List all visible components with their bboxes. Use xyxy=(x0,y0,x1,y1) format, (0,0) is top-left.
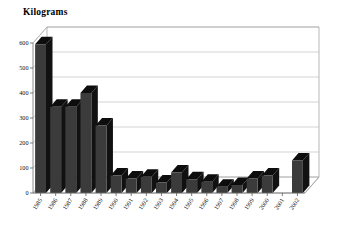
y-axis-tick-label: 600 xyxy=(19,39,28,46)
x-axis-tick-label: 1994 xyxy=(167,197,180,211)
chart-plot-area: 0100200300400500600 19851986198719881989… xyxy=(0,0,341,238)
y-axis-tick-label: 400 xyxy=(19,89,28,96)
x-axis-tick-label: 1989 xyxy=(91,197,104,211)
x-axis-tick-label: 1987 xyxy=(61,197,74,211)
x-axis-tick-label: 1986 xyxy=(46,197,59,211)
y-axis-tick-label: 100 xyxy=(19,164,28,171)
bar-column xyxy=(50,99,67,193)
x-axis-tick-label: 1988 xyxy=(76,197,89,211)
x-axis-tick-label: 1985 xyxy=(31,197,44,211)
y-axis-tick-label: 300 xyxy=(19,114,28,121)
y-axis-tick-label: 200 xyxy=(19,139,28,146)
x-axis-labels: 1985198619871988198919901991199219931994… xyxy=(31,197,301,211)
bar-column xyxy=(65,99,82,193)
x-axis-tick-label: 1997 xyxy=(212,197,225,211)
bar-column xyxy=(96,118,113,193)
x-axis-tick-label: 1996 xyxy=(197,197,210,211)
x-axis-tick-label: 1993 xyxy=(152,197,165,211)
bar-column xyxy=(35,37,52,193)
x-axis-tick-label: 2002 xyxy=(288,197,301,211)
y-axis-labels: 0100200300400500600 xyxy=(19,39,28,196)
x-axis-tick-label: 1991 xyxy=(121,197,134,211)
bar-column xyxy=(80,86,97,194)
x-axis-tick-label: 1995 xyxy=(182,197,195,211)
x-axis-tick-label: 1998 xyxy=(227,197,240,211)
chart-container: Kilograms 0100200300400500600 1985198619… xyxy=(0,0,341,238)
y-axis-tick-label: 0 xyxy=(25,189,28,196)
x-axis-tick-label: 1999 xyxy=(242,197,255,211)
x-axis-tick-label: 1992 xyxy=(136,197,149,211)
y-axis-tick-label: 500 xyxy=(19,64,28,71)
bar-column xyxy=(292,153,309,193)
x-axis-tick-label: 1990 xyxy=(106,197,119,211)
x-axis-tick-label: 2000 xyxy=(257,197,270,211)
x-axis-tick-label: 2001 xyxy=(272,197,285,211)
chart-bars xyxy=(35,37,309,193)
